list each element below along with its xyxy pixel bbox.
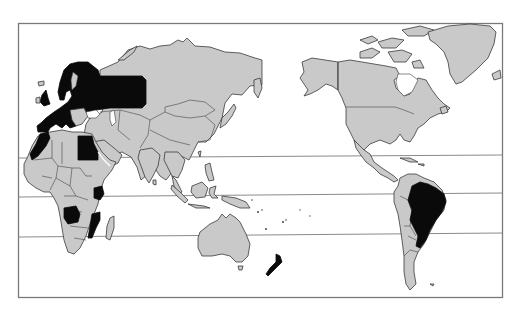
region-iceland-right: [492, 70, 501, 80]
region-uk-highlighted: [40, 90, 50, 106]
region-greenland: [428, 24, 496, 84]
region-newfoundland: [440, 106, 448, 114]
region-ireland: [36, 97, 40, 103]
region-java: [188, 204, 210, 208]
region-caribbean: [400, 158, 424, 166]
region-sri-lanka: [153, 180, 156, 185]
region-mexico-central-america: [354, 140, 398, 182]
region-tasmania: [238, 266, 243, 270]
region-new-guinea: [222, 196, 250, 208]
region-australia: [198, 214, 250, 262]
pacific-islands: [251, 199, 310, 230]
region-alaska: [300, 58, 338, 96]
region-iceland: [38, 81, 44, 86]
region-sakhalin-kamchatka: [254, 78, 262, 98]
region-sulawesi: [209, 186, 218, 198]
region-north-america: [338, 60, 450, 150]
region-new-zealand-highlighted: [266, 254, 282, 276]
region-kenya-highlighted: [94, 186, 104, 200]
world-map: [0, 0, 516, 315]
region-philippines: [205, 163, 214, 181]
region-taiwan: [198, 151, 201, 157]
region-borneo: [191, 182, 208, 198]
region-falklands: [430, 284, 434, 286]
region-angola-highlighted: [64, 206, 80, 224]
region-arctic-archipelago: [360, 26, 434, 68]
